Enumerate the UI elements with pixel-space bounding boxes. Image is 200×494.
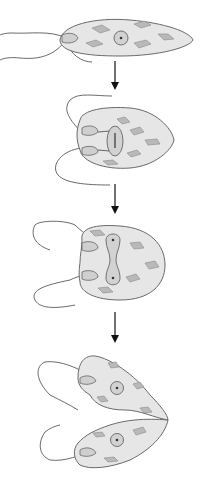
stage-3-euglena bbox=[33, 221, 165, 307]
stage-4-daughter-cells bbox=[38, 356, 168, 468]
arrow-3 bbox=[111, 312, 119, 343]
stage-1-euglena bbox=[0, 19, 193, 62]
flagellum bbox=[0, 33, 66, 38]
arrow-1 bbox=[111, 61, 119, 90]
arrow-2 bbox=[111, 184, 119, 214]
cell-body bbox=[77, 108, 174, 169]
stage-2-euglena bbox=[55, 95, 174, 185]
euglena-fission-diagram bbox=[0, 0, 200, 494]
